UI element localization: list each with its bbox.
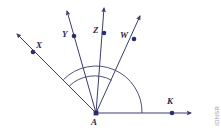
point-label-w: W bbox=[120, 31, 128, 40]
rays-group bbox=[17, 8, 191, 113]
geometry-canvas bbox=[0, 0, 221, 130]
point-label-z: Z bbox=[93, 26, 99, 35]
geometry-figure: X Y Z W K A IDNSR bbox=[0, 0, 221, 130]
point-label-x: X bbox=[36, 41, 42, 50]
vertex-point-a bbox=[94, 111, 99, 116]
point-label-y: Y bbox=[62, 30, 68, 39]
point-label-a: A bbox=[91, 118, 97, 127]
point-dot-x bbox=[31, 50, 36, 55]
point-label-k: K bbox=[167, 97, 173, 106]
angle-arcs-group bbox=[64, 66, 143, 113]
ray-ax-line bbox=[17, 34, 96, 113]
point-dot-z bbox=[102, 31, 107, 36]
ray-ay-line bbox=[67, 11, 96, 113]
point-dot-w bbox=[132, 37, 137, 42]
points-group bbox=[31, 31, 175, 116]
arc-outer bbox=[64, 66, 143, 113]
point-dot-y bbox=[72, 34, 77, 39]
arc-inner bbox=[69, 76, 112, 86]
watermark-text: IDNSR bbox=[214, 106, 220, 126]
point-dot-k bbox=[170, 111, 175, 116]
